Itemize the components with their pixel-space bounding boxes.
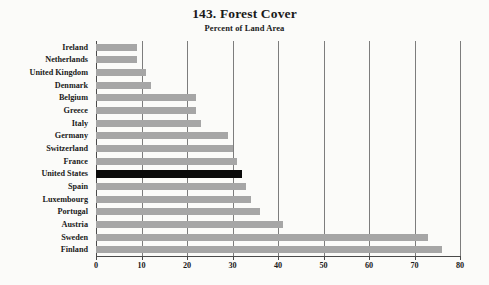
x-axis: 01020304050607080 (96, 256, 460, 285)
tick-label: 0 (81, 261, 111, 271)
tick-label: 80 (445, 261, 475, 271)
tick-label: 60 (354, 261, 384, 271)
category-label: United States (0, 169, 88, 178)
bar (96, 82, 151, 89)
gridline-80 (460, 41, 461, 256)
category-label: Spain (0, 182, 88, 191)
tick-label: 70 (400, 261, 430, 271)
category-label: Austria (0, 220, 88, 229)
gridline-50 (324, 41, 325, 256)
tick-mark (187, 256, 188, 260)
plot-area (96, 41, 460, 256)
tick-mark (415, 256, 416, 260)
category-label: Greece (0, 106, 88, 115)
category-label: Portugal (0, 207, 88, 216)
bar (96, 132, 228, 139)
tick-label: 50 (309, 261, 339, 271)
category-axis-labels: IrelandNetherlandsUnited KingdomDenmarkB… (0, 41, 92, 256)
bar (96, 94, 196, 101)
bar (96, 145, 233, 152)
tick-label: 10 (127, 261, 157, 271)
bar (96, 158, 237, 165)
bar (96, 196, 251, 203)
category-label: Belgium (0, 93, 88, 102)
bar (96, 234, 428, 241)
tick-mark (369, 256, 370, 260)
tick-mark (142, 256, 143, 260)
title-block: 143. Forest Cover Percent of Land Area (0, 6, 489, 34)
bar (96, 107, 196, 114)
bar (96, 120, 201, 127)
category-label: Germany (0, 131, 88, 140)
bar (96, 183, 246, 190)
chart-plot-wrapper: IrelandNetherlandsUnited KingdomDenmarkB… (0, 41, 489, 285)
bar (96, 44, 137, 51)
chart-subtitle: Percent of Land Area (0, 22, 489, 34)
category-label: Netherlands (0, 55, 88, 64)
category-label: Denmark (0, 81, 88, 90)
tick-mark (324, 256, 325, 260)
category-label: Luxembourg (0, 195, 88, 204)
category-label: United Kingdom (0, 68, 88, 77)
category-label: Ireland (0, 43, 88, 52)
tick-label: 20 (172, 261, 202, 271)
bar (96, 69, 146, 76)
gridline-70 (415, 41, 416, 256)
category-label: France (0, 157, 88, 166)
tick-mark (96, 256, 97, 260)
chart-page: 143. Forest Cover Percent of Land Area I… (0, 0, 489, 285)
tick-label: 30 (218, 261, 248, 271)
category-label: Italy (0, 119, 88, 128)
bar (96, 56, 137, 63)
bar (96, 221, 283, 228)
tick-mark (278, 256, 279, 260)
category-label: Finland (0, 245, 88, 254)
page-title: 143. Forest Cover (0, 6, 489, 21)
tick-mark (460, 256, 461, 260)
tick-mark (233, 256, 234, 260)
bar (96, 170, 242, 178)
gridline-60 (369, 41, 370, 256)
category-label: Sweden (0, 233, 88, 242)
category-label: Switzerland (0, 144, 88, 153)
bar (96, 246, 442, 253)
tick-label: 40 (263, 261, 293, 271)
bar (96, 208, 260, 215)
